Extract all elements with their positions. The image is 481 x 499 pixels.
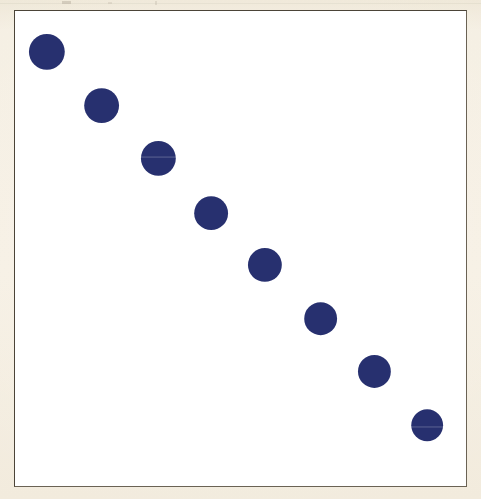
scanned-page (0, 0, 481, 499)
scan-seam (141, 156, 176, 157)
scatter-point (194, 196, 228, 230)
scan-seam (411, 426, 443, 427)
scatter-point (84, 88, 119, 123)
plot-area (15, 11, 466, 486)
marker-layer (29, 34, 443, 441)
scatter-point (358, 355, 391, 388)
scatter-point (411, 409, 443, 441)
scan-artifact (0, 3, 481, 4)
scatter-point (304, 302, 337, 335)
chart-frame (14, 10, 467, 487)
scatter-point (141, 141, 176, 176)
scatter-point (29, 34, 65, 70)
scatter-plot-svg (15, 11, 466, 486)
scatter-point (248, 248, 282, 282)
